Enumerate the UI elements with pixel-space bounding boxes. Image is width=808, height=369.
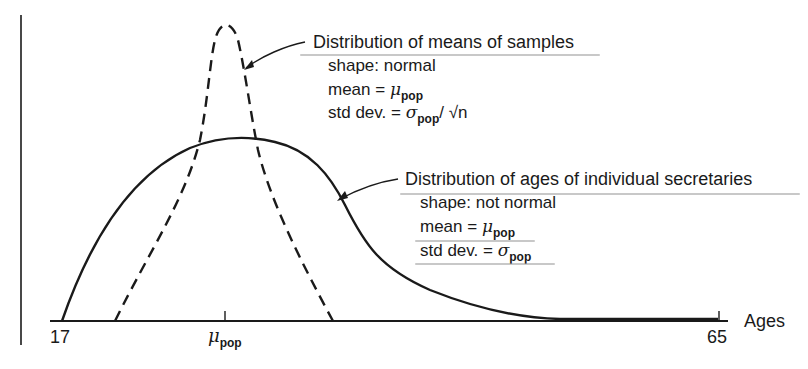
- sample-means-title: Distribution of means of samples: [313, 32, 574, 52]
- tick-label-17: 17: [50, 327, 70, 347]
- arrow-sample-means: [246, 42, 305, 68]
- individuals-shape: shape: not normal: [420, 193, 556, 213]
- x-axis-label: Ages: [744, 311, 785, 331]
- individuals-mean: mean = μpop: [420, 216, 515, 238]
- sample-means-mean: mean = μpop: [328, 79, 423, 101]
- tick-label-mean: μpop: [208, 326, 242, 348]
- arrowhead-icon: [244, 60, 254, 70]
- arrow-individuals: [340, 179, 398, 199]
- sample-means-shape: shape: normal: [328, 56, 436, 76]
- individuals-title: Distribution of ages of individual secre…: [405, 169, 752, 189]
- tick-label-65: 65: [707, 327, 727, 347]
- sample-means-sd: std dev. = σpop/ √n: [328, 102, 468, 124]
- sample-means-curve: [115, 25, 333, 321]
- individuals-curve: [62, 138, 718, 321]
- pencil-underline: [415, 263, 555, 265]
- individuals-sd: std dev. = σpop: [420, 240, 531, 262]
